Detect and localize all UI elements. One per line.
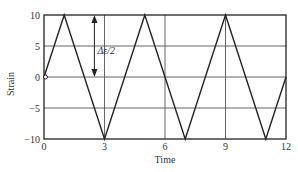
strain-time-chart: Δε/2 1050−5−10 036912 Time Strain	[0, 0, 298, 172]
y-axis-title: Strain	[5, 72, 16, 96]
x-tick-labels: 036912	[42, 141, 292, 152]
y-tick-labels: 1050−5−10	[24, 10, 40, 145]
y-tick-label: 0	[35, 72, 40, 83]
y-tick-label: −5	[29, 103, 40, 114]
y-tick-label: −10	[24, 134, 40, 145]
x-tick-label: 0	[42, 141, 47, 152]
arrow-up-head-icon	[91, 15, 97, 23]
y-tick-label: 5	[35, 41, 40, 52]
x-tick-label: 3	[102, 141, 107, 152]
y-tick-label: 10	[30, 10, 40, 21]
origin-marker	[44, 75, 48, 79]
arrow-down-head-icon	[91, 69, 97, 77]
x-tick-label: 9	[223, 141, 228, 152]
x-tick-label: 6	[163, 141, 168, 152]
delta-strain-label: Δε/2	[96, 45, 115, 56]
x-axis-title: Time	[155, 154, 176, 165]
x-tick-label: 12	[281, 141, 291, 152]
